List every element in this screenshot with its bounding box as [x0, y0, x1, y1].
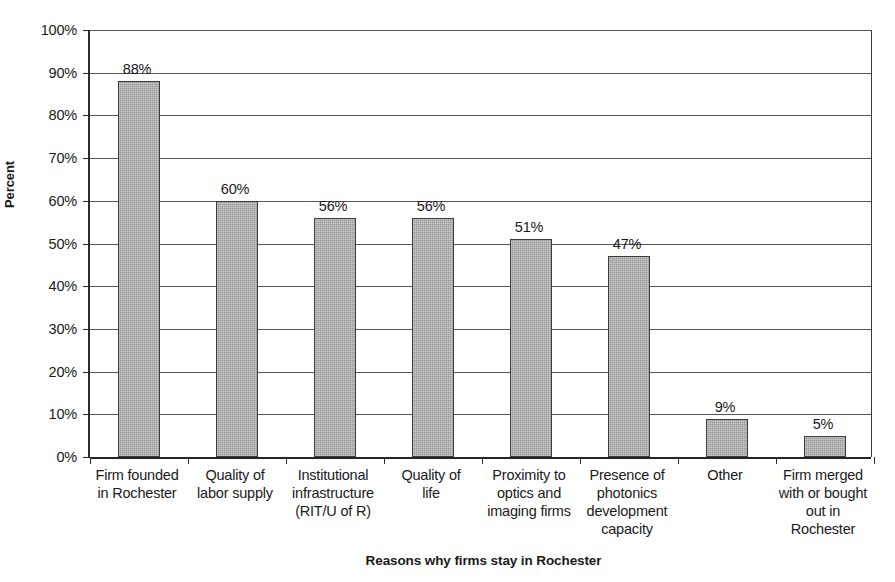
x-axis-label-line: labor supply	[180, 484, 290, 502]
y-axis-tick	[83, 372, 90, 373]
y-axis-tick-label: 0%	[7, 449, 77, 465]
x-axis-tick	[384, 457, 385, 464]
x-axis-label-line: Proximity to	[474, 466, 584, 484]
bar-value-label: 51%	[489, 219, 569, 235]
y-axis-tick-label: 50%	[7, 236, 77, 252]
bar	[118, 81, 160, 457]
y-axis-tick	[83, 158, 90, 159]
y-axis-tick-label: 100%	[7, 22, 77, 38]
gridline-40	[90, 286, 871, 287]
y-axis-tick-label: 20%	[7, 364, 77, 380]
x-axis-label-line: capacity	[572, 520, 682, 538]
x-axis-tick	[776, 457, 777, 464]
y-axis-tick-label: 90%	[7, 65, 77, 81]
bar-value-label: 9%	[685, 399, 765, 415]
y-axis-title: Percent	[2, 88, 22, 208]
bar-value-label: 88%	[97, 61, 177, 77]
y-axis-tick	[83, 73, 90, 74]
y-axis-tick-label: 80%	[7, 107, 77, 123]
x-axis-category-label: Firm mergedwith or boughtout inRochester	[768, 466, 878, 538]
bar-chart: Percent Reasons why firms stay in Roches…	[0, 0, 895, 582]
gridline-90	[90, 73, 871, 74]
bar	[804, 436, 846, 457]
y-axis-tick-label: 30%	[7, 321, 77, 337]
y-axis-tick	[83, 30, 90, 31]
x-axis-category-label: Presence ofphotonicsdevelopmentcapacity	[572, 466, 682, 538]
gridline-0	[90, 457, 871, 459]
x-axis-label-line: optics and	[474, 484, 584, 502]
x-axis-label-line: Quality of	[376, 466, 486, 484]
x-axis-title: Reasons why firms stay in Rochester	[0, 553, 895, 568]
x-axis-tick	[482, 457, 483, 464]
bar	[510, 239, 552, 457]
gridline-30	[90, 329, 871, 330]
x-axis-label-line: imaging firms	[474, 502, 584, 520]
y-axis-tick	[83, 414, 90, 415]
x-axis-tick	[580, 457, 581, 464]
x-axis-label-line: Firm merged	[768, 466, 878, 484]
x-axis-category-label: Other	[670, 466, 780, 484]
y-axis-tick-label: 10%	[7, 406, 77, 422]
y-axis-tick-label: 60%	[7, 193, 77, 209]
bar-value-label: 56%	[391, 198, 471, 214]
x-axis-category-label: Firm foundedin Rochester	[82, 466, 192, 502]
x-axis-label-line: Quality of	[180, 466, 290, 484]
y-axis-tick	[83, 201, 90, 202]
x-axis-tick	[188, 457, 189, 464]
bar-value-label: 60%	[195, 181, 275, 197]
x-axis-label-line: infrastructure	[278, 484, 388, 502]
bar	[314, 218, 356, 457]
gridline-60	[90, 201, 871, 202]
y-axis-tick	[83, 244, 90, 245]
plot-area	[88, 30, 872, 457]
x-axis-label-line: development	[572, 502, 682, 520]
x-axis-tick	[286, 457, 287, 464]
x-axis-tick	[678, 457, 679, 464]
x-axis-tick	[90, 457, 91, 464]
bar	[608, 256, 650, 457]
gridline-50	[90, 244, 871, 245]
x-axis-label-line: in Rochester	[82, 484, 192, 502]
x-axis-label-line: out in	[768, 502, 878, 520]
x-axis-label-line: (RIT/U of R)	[278, 502, 388, 520]
x-axis-category-label: Quality oflabor supply	[180, 466, 290, 502]
x-axis-label-line: with or bought	[768, 484, 878, 502]
y-axis-tick	[83, 115, 90, 116]
x-axis-label-line: life	[376, 484, 486, 502]
bar	[706, 419, 748, 457]
y-axis-tick	[83, 286, 90, 287]
x-axis-label-line: Firm founded	[82, 466, 192, 484]
gridline-80	[90, 115, 871, 116]
bar-value-label: 5%	[783, 416, 863, 432]
y-axis-tick	[83, 329, 90, 330]
y-axis-tick-label: 40%	[7, 278, 77, 294]
bar	[216, 201, 258, 457]
gridline-100	[90, 30, 871, 31]
x-axis-label-line: Presence of	[572, 466, 682, 484]
bar-value-label: 56%	[293, 198, 373, 214]
x-axis-category-label: Quality oflife	[376, 466, 486, 502]
x-axis-label-line: Institutional	[278, 466, 388, 484]
gridline-20	[90, 372, 871, 373]
bar	[412, 218, 454, 457]
gridline-70	[90, 158, 871, 159]
x-axis-tick	[874, 457, 875, 464]
bar-value-label: 47%	[587, 236, 667, 252]
x-axis-label-line: Rochester	[768, 520, 878, 538]
y-axis-tick	[83, 457, 90, 458]
x-axis-label-line: photonics	[572, 484, 682, 502]
x-axis-category-label: Proximity tooptics andimaging firms	[474, 466, 584, 520]
x-axis-label-line: Other	[670, 466, 780, 484]
x-axis-category-label: Institutionalinfrastructure(RIT/U of R)	[278, 466, 388, 520]
y-axis-tick-label: 70%	[7, 150, 77, 166]
